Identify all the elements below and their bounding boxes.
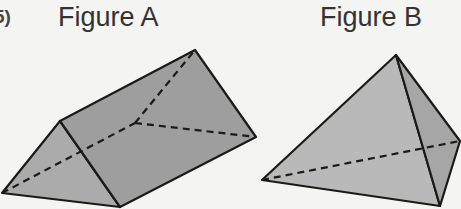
figures-drawing	[0, 0, 461, 209]
figure-a-prism	[2, 50, 256, 207]
figure-b-pyramid	[262, 55, 460, 206]
